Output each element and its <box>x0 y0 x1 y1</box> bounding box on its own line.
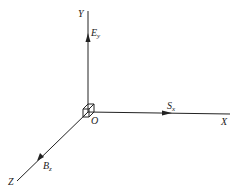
diagram-canvas: Y X Z O Ey Sx Bz <box>0 0 241 193</box>
e-vector-label: Ey <box>91 28 100 40</box>
z-axis-label: Z <box>8 177 14 187</box>
origin-label: O <box>91 116 98 126</box>
s-vector-label: Sx <box>167 101 175 113</box>
axes-drawing <box>0 0 241 193</box>
x-axis-label: X <box>221 117 227 127</box>
z-axis <box>17 112 88 181</box>
y-axis-label: Y <box>78 9 84 19</box>
x-axis <box>88 112 230 114</box>
b-vector-label: Bz <box>43 161 52 173</box>
e-vector-arrowhead-icon <box>86 33 91 42</box>
